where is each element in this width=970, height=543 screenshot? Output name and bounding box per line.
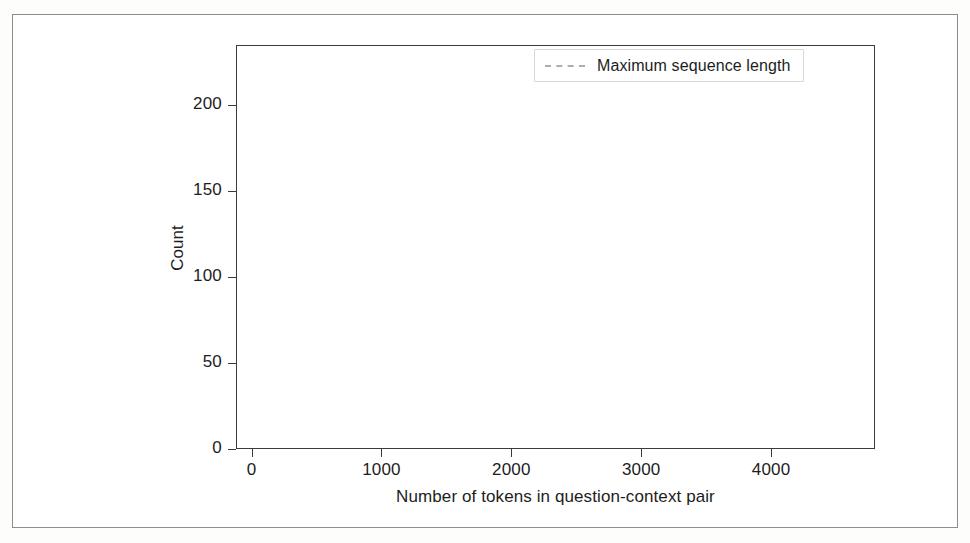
x-axis-tick <box>641 449 642 457</box>
y-axis-tick-label: 200 <box>162 94 222 114</box>
y-axis-tick-label-container: 200 <box>160 94 222 114</box>
x-axis-tick-label-container: 4000 <box>716 460 826 484</box>
x-axis-tick-label: 3000 <box>586 460 696 480</box>
x-axis-tick-label: 2000 <box>456 460 566 480</box>
x-axis-tick <box>381 449 382 457</box>
x-axis-tick-label-container: 0 <box>197 460 307 484</box>
x-axis-tick-label-container: 3000 <box>586 460 696 484</box>
x-axis-tick-label-container: 2000 <box>456 460 566 484</box>
x-axis-tick <box>511 449 512 457</box>
x-axis-tick-label: 1000 <box>326 460 436 480</box>
histogram-figure: Count 050100150200 01000200030004000 Num… <box>0 0 970 543</box>
x-axis-label: Number of tokens in question-context pai… <box>236 487 875 507</box>
y-axis-tick-label-container: 0 <box>160 438 222 458</box>
y-axis-tick-label: 150 <box>162 180 222 200</box>
y-axis-tick-label: 0 <box>162 438 222 458</box>
x-axis-tick-label-container: 1000 <box>326 460 436 484</box>
plot-frame <box>236 45 875 449</box>
y-axis-tick-label: 50 <box>162 352 222 372</box>
y-axis-tick-label-container: 100 <box>160 266 222 286</box>
x-axis-tick-label: 4000 <box>716 460 826 480</box>
x-axis-tick <box>252 449 253 457</box>
y-axis-tick <box>228 191 236 192</box>
y-axis-tick-label-container: 150 <box>160 180 222 200</box>
y-axis-tick-label-container: 50 <box>160 352 222 372</box>
y-axis-tick <box>228 449 236 450</box>
legend-label: Maximum sequence length <box>597 57 791 75</box>
legend-dashed-line-icon <box>545 65 585 67</box>
x-axis-tick <box>771 449 772 457</box>
y-axis-tick <box>228 277 236 278</box>
legend: Maximum sequence length <box>534 49 804 82</box>
x-axis-tick-label: 0 <box>197 460 307 480</box>
y-axis-tick <box>228 105 236 106</box>
y-axis-tick <box>228 363 236 364</box>
y-axis-tick-label: 100 <box>162 266 222 286</box>
y-axis-label-container: Count <box>118 190 238 310</box>
figure-page: Count 050100150200 01000200030004000 Num… <box>0 0 970 543</box>
